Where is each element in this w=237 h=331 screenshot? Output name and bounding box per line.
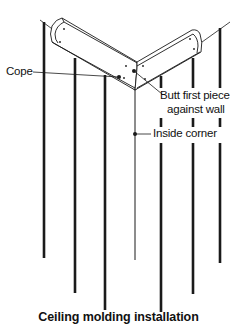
butt-dot	[132, 69, 136, 73]
butt-label-line1: Butt first piece	[160, 89, 230, 102]
inside-corner-dot	[133, 132, 137, 136]
cope-label: Cope	[6, 65, 33, 78]
butt-label-line2: against wall	[167, 103, 225, 116]
molding-diagram	[0, 0, 237, 331]
inside-corner-label: Inside corner	[153, 127, 217, 140]
cope-dot	[117, 75, 121, 79]
diagram-caption: Ceiling molding installation	[0, 310, 237, 324]
